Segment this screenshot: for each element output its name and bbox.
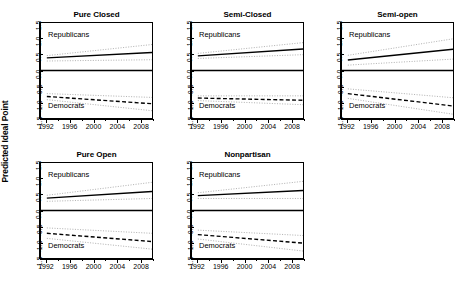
x-tick-label: 1992 [189,263,205,270]
x-tick-minor [256,119,257,121]
x-tick-label: 1996 [363,123,379,130]
x-tick-label: 1996 [62,123,78,130]
x-axis: 19921996200020042008 [40,259,153,275]
x-tick-major [94,119,95,123]
x-tick-label: 2004 [261,123,277,130]
x-tick-major [245,119,246,123]
x-tick-minor [256,259,257,261]
x-tick-major [141,119,142,123]
y-axis: -1.5-1.0-0.50.00.51.01.5 [311,22,341,119]
x-tick-major [292,119,293,123]
x-tick-minor [233,259,234,261]
annotation-democrats: Democrats [349,101,385,110]
x-tick-label: 2008 [434,123,450,130]
x-tick-minor [233,119,234,121]
x-tick-major [197,259,198,263]
x-tick-major [70,259,71,263]
panel-nonpartisan: Nonpartisan-1.5-1.0-0.50.00.51.01.519921… [161,150,304,275]
x-tick-minor [406,119,407,121]
panel-title: Pure Open [40,150,153,161]
x-tick-minor [82,259,83,261]
x-tick-major [46,259,47,263]
y-axis: -1.5-1.0-0.50.00.51.01.5 [10,162,40,259]
x-tick-label: 2008 [133,123,149,130]
x-tick-major [46,119,47,123]
x-tick-label: 2000 [237,123,253,130]
x-tick-label: 1992 [38,263,54,270]
x-tick-minor [58,119,59,121]
x-tick-major [94,259,95,263]
series-line [47,45,152,56]
panel-title: Nonpartisan [191,150,304,161]
series-line [348,49,453,60]
panel-pure-closed: Pure Closed-1.5-1.0-0.50.00.51.01.519921… [10,10,153,135]
x-tick-label: 2004 [261,263,277,270]
series-line [47,182,152,195]
series-line [47,198,152,201]
series-line [198,230,303,235]
x-tick-minor [304,119,305,121]
series-line [47,52,152,57]
panel-pure-open: Pure Open-1.5-1.0-0.50.00.51.01.51992199… [10,150,153,275]
series-line [47,228,152,233]
x-tick-label: 2000 [237,263,253,270]
x-tick-label: 2008 [133,263,149,270]
x-tick-major [117,119,118,123]
annotation-republicans: Republicans [48,30,89,39]
x-tick-label: 1992 [189,123,205,130]
x-tick-minor [153,119,154,121]
x-tick-minor [82,119,83,121]
x-tick-label: 1992 [38,123,54,130]
x-tick-minor [383,119,384,121]
y-axis: -1.5-1.0-0.50.00.51.01.5 [10,22,40,119]
x-tick-minor [129,259,130,261]
x-axis: 19921996200020042008 [341,119,454,135]
series-line [348,39,453,55]
x-tick-minor [430,119,431,121]
x-axis: 19921996200020042008 [191,259,304,275]
series-line [47,192,152,199]
annotation-democrats: Democrats [48,101,84,110]
x-tick-minor [359,119,360,121]
x-tick-minor [209,119,210,121]
annotation-republicans: Republicans [48,170,89,179]
series-line [198,98,303,100]
annotation-republicans: Republicans [349,30,390,39]
x-tick-label: 2004 [110,123,126,130]
annotation-republicans: Republicans [199,30,240,39]
x-tick-minor [105,119,106,121]
x-tick-minor [209,259,210,261]
panel-semi-open: Semi-open-1.5-1.0-0.50.00.51.01.51992199… [311,10,454,135]
x-tick-minor [105,259,106,261]
x-tick-minor [153,259,154,261]
x-tick-minor [304,259,305,261]
x-tick-major [395,119,396,123]
y-axis: -1.5-1.0-0.50.00.51.01.5 [161,22,191,119]
annotation-democrats: Democrats [199,241,235,250]
x-tick-major [197,119,198,123]
x-tick-label: 2000 [86,263,102,270]
x-tick-label: 1996 [213,123,229,130]
panel-title: Semi-Closed [191,10,304,21]
x-tick-major [221,119,222,123]
x-axis: 19921996200020042008 [40,119,153,135]
x-tick-major [268,119,269,123]
x-tick-major [141,259,142,263]
x-tick-major [292,259,293,263]
x-tick-label: 1996 [62,263,78,270]
x-tick-label: 2008 [284,123,300,130]
x-tick-minor [129,119,130,121]
x-tick-label: 1992 [339,123,355,130]
series-line [348,59,453,65]
panel-semi-closed: Semi-Closed-1.5-1.0-0.50.00.51.01.519921… [161,10,304,135]
series-line [47,94,152,98]
x-tick-minor [58,259,59,261]
panel-title: Pure Closed [40,10,153,21]
x-tick-minor [280,119,281,121]
x-tick-major [70,119,71,123]
annotation-democrats: Democrats [199,101,235,110]
series-line [348,89,453,98]
panel-title: Semi-open [341,10,454,21]
x-tick-minor [280,259,281,261]
